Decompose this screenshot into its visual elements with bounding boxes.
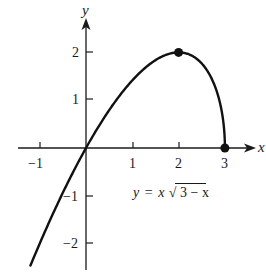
x-ticks: −1 1 2 3 [28,142,228,171]
y-tick-label: 1 [72,92,79,107]
x-tick-label: 2 [175,156,182,171]
eq-x: x [157,185,165,200]
svg-text:y = x √: y = x √ 3 − x [131,185,209,200]
eq-equals: = [145,185,153,200]
function-plot: x y −1 1 2 3 2 1 −1 −2 y = x √ [0,0,266,272]
x-tick-label: −1 [28,156,43,171]
function-curve [30,52,224,265]
endpoint-point [220,144,229,153]
y-tick-label: −1 [63,189,78,204]
y-axis: y [80,2,91,270]
y-tick-label: −2 [63,236,78,251]
x-tick-label: 1 [129,156,136,171]
eq-y: y [131,185,140,200]
y-tick-label: 2 [72,45,79,60]
eq-radicand: 3 − x [180,185,209,200]
eq-radical: √ [169,185,177,200]
maximum-point [174,48,183,57]
x-axis-label: x [257,139,265,155]
y-axis-label: y [80,2,89,18]
equation-label: y = x √ 3 − x [131,184,209,201]
x-tick-label: 3 [221,156,228,171]
